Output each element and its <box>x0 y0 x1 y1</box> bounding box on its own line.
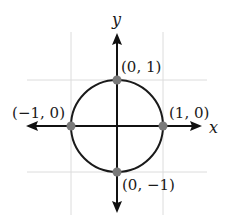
point-label: (0, −1) <box>122 176 175 194</box>
y-axis-label: y <box>111 10 122 29</box>
axes <box>26 33 202 213</box>
point-label: (−1, 0) <box>12 104 65 122</box>
x-axis-label: x <box>209 118 218 137</box>
point-marker <box>67 122 76 131</box>
point-marker <box>159 122 168 131</box>
point-label: (0, 1) <box>121 58 161 76</box>
point-marker <box>113 168 122 177</box>
unit-circle-diagram: x y (0, 1)(1, 0)(−1, 0)(0, −1) <box>0 0 233 221</box>
point-marker <box>113 76 122 85</box>
point-label: (1, 0) <box>169 104 209 122</box>
